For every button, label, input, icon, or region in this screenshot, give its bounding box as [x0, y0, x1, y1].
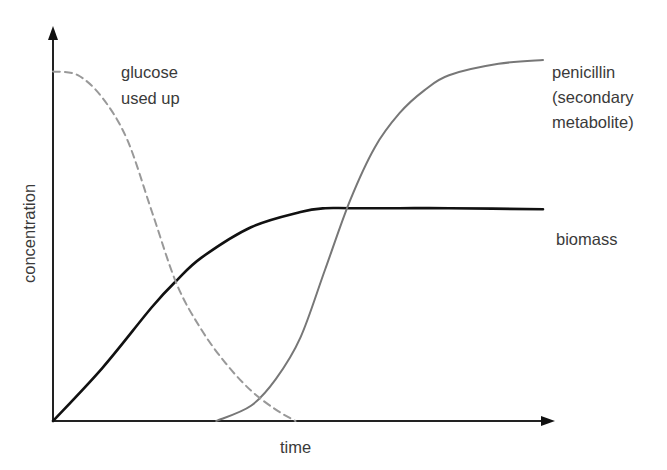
penicillin-curve [216, 60, 543, 421]
glucose-label-line1: glucose [121, 63, 178, 82]
x-axis-label: time [280, 438, 311, 457]
series-layer [53, 60, 543, 421]
penicillin-label-line3: metabolite) [552, 113, 634, 132]
x-axis-arrow-icon [541, 416, 555, 426]
penicillin-label-line2: (secondary [552, 88, 634, 107]
biomass-label: biomass [556, 230, 617, 249]
biomass-curve [53, 208, 543, 421]
y-axis-arrow-icon [48, 26, 58, 40]
glucose-label-line2: used up [121, 89, 180, 108]
glucose-curve [53, 71, 296, 421]
y-axis-label: concentration [20, 184, 39, 283]
penicillin-label-line1: penicillin [552, 63, 615, 82]
